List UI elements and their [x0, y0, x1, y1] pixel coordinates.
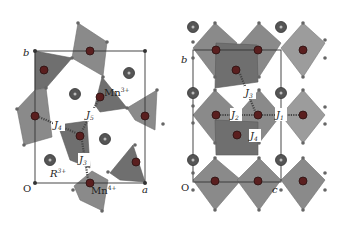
r-ion: [188, 22, 199, 33]
mn-ion: [299, 111, 307, 119]
r-ion: [124, 68, 135, 79]
mn-ion: [212, 111, 220, 119]
mn4-label: Mn4+: [91, 184, 117, 196]
mn-pyramid: [127, 90, 157, 130]
r-ion: [100, 134, 111, 145]
r-ion: [276, 22, 287, 33]
r-ion: [276, 155, 287, 166]
mn-ion: [232, 66, 240, 74]
r-ion: [276, 88, 287, 99]
mn-ion: [212, 46, 220, 54]
r-ion: [188, 155, 199, 166]
mn-ion: [254, 177, 262, 185]
mn-ion: [299, 46, 307, 54]
axis-b-label: b: [23, 47, 29, 58]
mn-ion: [132, 158, 140, 166]
crystal-structure-figure: b O a Mn3+ Mn4+ R3+ J5 J4 J3: [0, 0, 341, 228]
axis-b-label: b: [181, 54, 187, 65]
mn-ion: [254, 46, 262, 54]
mn-ion: [31, 112, 39, 120]
mn-ion: [76, 132, 84, 140]
mn-ion: [299, 177, 307, 185]
left-panel: b O a Mn3+ Mn4+ R3+ J5 J4 J3: [15, 21, 165, 213]
origin-label: O: [181, 182, 189, 193]
axis-c-label: c: [272, 184, 278, 195]
r3-label: R3+: [49, 167, 66, 179]
mn3-ion: [96, 93, 104, 101]
mn-ion: [141, 112, 149, 120]
mn-ion: [211, 177, 219, 185]
mn-ion: [233, 131, 241, 139]
mn-ion: [86, 47, 94, 55]
r-ion: [45, 155, 56, 166]
r-ion: [70, 89, 81, 100]
mn-ion: [254, 111, 262, 119]
origin-label: O: [23, 183, 31, 194]
axis-a-label: a: [142, 184, 148, 195]
right-panel: b O c J3 J2 J1 J4: [181, 21, 327, 212]
r-ion: [188, 88, 199, 99]
mn3-label: Mn3+: [104, 86, 130, 98]
mn-ion: [40, 66, 48, 74]
